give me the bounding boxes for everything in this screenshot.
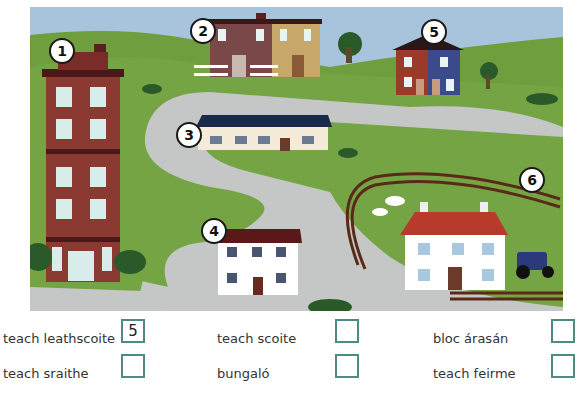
answer-box-teach-feirme[interactable]: [551, 354, 575, 378]
village-illustration: 1 2 3 4 5 6: [30, 7, 563, 311]
scene-artwork: [30, 7, 563, 311]
badge-1: 1: [49, 38, 75, 64]
badge-3: 3: [176, 122, 202, 148]
answer-box-bungalo[interactable]: [335, 354, 359, 378]
badge-2: 2: [190, 18, 216, 44]
label-teach-leathscoite: teach leathscoite: [3, 331, 115, 346]
label-bloc-arasan: bloc árasán: [433, 331, 508, 346]
label-teach-scoite: teach scoite: [217, 331, 296, 346]
badge-4: 4: [201, 218, 227, 244]
answer-box-bloc-arasan[interactable]: [551, 319, 575, 343]
badge-6: 6: [519, 167, 545, 193]
label-teach-feirme: teach feirme: [433, 366, 516, 381]
label-bungalo: bungaló: [217, 366, 270, 381]
answer-section: teach leathscoite 5 teach scoite bloc ár…: [0, 314, 587, 394]
badge-5: 5: [421, 19, 447, 45]
answer-box-teach-sraithe[interactable]: [121, 354, 145, 378]
label-teach-sraithe: teach sraithe: [3, 366, 89, 381]
answer-box-teach-leathscoite[interactable]: 5: [121, 319, 145, 343]
answer-box-teach-scoite[interactable]: [335, 319, 359, 343]
